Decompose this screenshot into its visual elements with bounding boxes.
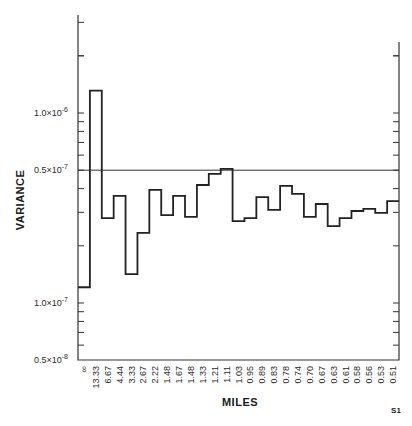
x-tick-label: 13.33 [91,366,101,389]
x-tick-label: 0.83 [269,366,279,384]
y-tick-label: 0.5×10-8 [34,353,68,365]
x-tick-label: 0.56 [364,366,374,384]
x-axis-tick-labels: ∞13.336.674.443.332.672.221.481.671.481.… [79,366,398,389]
x-tick-label: 0.89 [257,366,267,384]
x-tick-label: 0.67 [317,366,327,384]
variance-chart: 1.0×10-60.5×10-71.0×10-70.5×10-8 ∞13.336… [0,0,412,426]
plot-axes [78,15,399,360]
x-tick-label: 0.51 [388,366,398,384]
x-tick-label: 1.11 [222,366,232,383]
variance-step-series [78,91,399,288]
axis-frame [78,15,399,360]
x-tick-label: 0.78 [281,366,291,384]
x-tick-label: 2.67 [138,366,148,384]
x-tick-label: 1.48 [186,366,196,384]
x-tick-label: 3.33 [127,366,137,384]
y-tick-label: 0.5×10-7 [34,163,68,175]
x-tick-label: 1.67 [174,366,184,384]
x-tick-label: ∞ [79,366,89,372]
x-tick-label: 0.95 [245,366,255,384]
x-tick-label: 0.70 [305,366,315,384]
y-axis-ticks [78,22,399,345]
x-tick-label: 0.53 [376,366,386,384]
y-axis-tick-labels: 1.0×10-60.5×10-71.0×10-70.5×10-8 [34,106,68,365]
y-tick-label: 1.0×10-7 [34,296,68,308]
x-tick-label: 6.67 [103,366,113,384]
x-tick-label: 0.74 [293,366,303,384]
x-tick-label: 1.33 [198,366,208,384]
x-tick-label: 0.58 [352,366,362,384]
x-tick-label: 1.03 [234,366,244,384]
x-tick-label: 1.21 [210,366,220,384]
x-tick-label: 0.63 [329,366,339,384]
x-tick-label: 4.44 [115,366,125,384]
figure-id-label: S1 [391,406,401,415]
x-tick-label: 2.22 [150,366,160,384]
y-axis-title: VARIANCE [14,170,26,231]
x-tick-label: 0.61 [341,366,351,384]
x-tick-label: 1.48 [162,366,172,384]
y-tick-label: 1.0×10-6 [34,106,68,118]
x-axis-title: MILES [222,396,258,408]
